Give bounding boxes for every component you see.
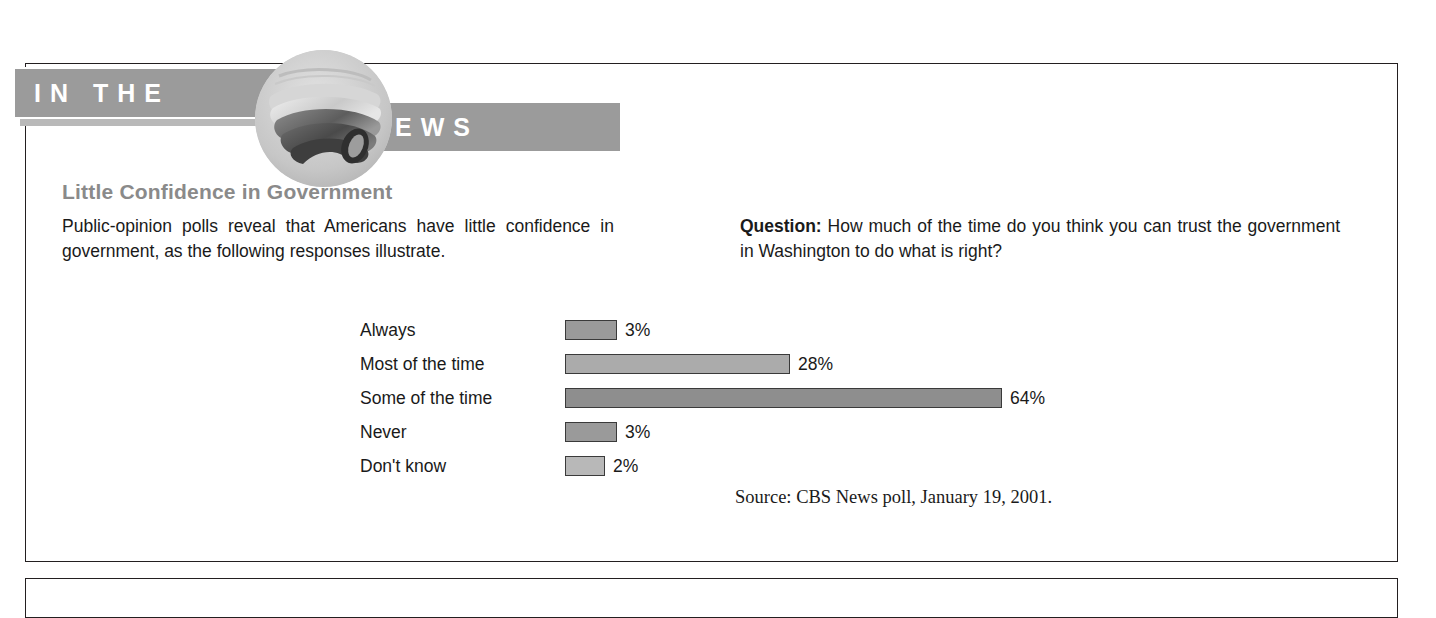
chart-value-label: 2% bbox=[613, 451, 638, 481]
source-line: Source: CBS News poll, January 19, 2001. bbox=[735, 487, 1052, 508]
intro-paragraph: Public-opinion polls reveal that America… bbox=[62, 214, 614, 264]
question-paragraph: Question: How much of the time do you th… bbox=[740, 214, 1340, 264]
chart-category-label: Most of the time bbox=[360, 349, 560, 379]
chart-category-label: Some of the time bbox=[360, 383, 560, 413]
chart-row: Most of the time 28% bbox=[360, 349, 1340, 379]
chart-bar bbox=[565, 388, 1002, 408]
chart-category-label: Always bbox=[360, 315, 560, 345]
chart-row: Some of the time 64% bbox=[360, 383, 1340, 413]
next-article-panel bbox=[25, 578, 1398, 618]
chart-value-label: 28% bbox=[798, 349, 833, 379]
chart-row: Don't know 2% bbox=[360, 451, 1340, 481]
page-title: Little Confidence in Government bbox=[62, 180, 393, 204]
chart-value-label: 3% bbox=[625, 315, 650, 345]
article-panel bbox=[25, 63, 1398, 562]
chart-row: Always 3% bbox=[360, 315, 1340, 345]
chart-category-label: Don't know bbox=[360, 451, 560, 481]
chart-value-label: 3% bbox=[625, 417, 650, 447]
chart-bar bbox=[565, 456, 605, 476]
chart-value-label: 64% bbox=[1010, 383, 1045, 413]
poll-bar-chart: Always 3% Most of the time 28% Some of t… bbox=[360, 315, 1340, 475]
question-text: How much of the time do you think you ca… bbox=[740, 216, 1340, 261]
chart-category-label: Never bbox=[360, 417, 560, 447]
chart-bar bbox=[565, 422, 617, 442]
chart-row: Never 3% bbox=[360, 417, 1340, 447]
chart-bar bbox=[565, 320, 617, 340]
question-label: Question: bbox=[740, 216, 822, 236]
chart-bar bbox=[565, 354, 790, 374]
